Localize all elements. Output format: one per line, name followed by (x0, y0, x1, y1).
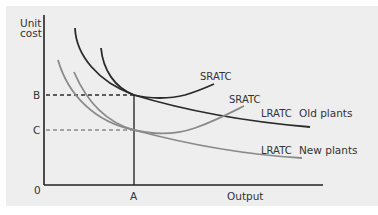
y-axis-label-cost: cost (20, 27, 42, 39)
lratc-new-label: LRATC (261, 145, 292, 156)
tick-label-c: C (33, 124, 40, 136)
sratc-old-plants-curve (101, 48, 214, 98)
tick-label-a: A (130, 190, 138, 202)
old-plants-label: Old plants (299, 107, 352, 119)
new-plants-label: New plants (299, 144, 358, 156)
sratc-new-label: SRATC (229, 94, 260, 105)
origin-label: 0 (34, 184, 41, 196)
x-axis-label: Output (227, 190, 263, 202)
lratc-old-label: LRATC (261, 108, 292, 119)
cost-curves-chart: Unit cost B C 0 A Output SRATC SRATC LRA… (0, 0, 378, 215)
sratc-old-label: SRATC (200, 71, 231, 82)
tick-label-b: B (33, 89, 40, 101)
